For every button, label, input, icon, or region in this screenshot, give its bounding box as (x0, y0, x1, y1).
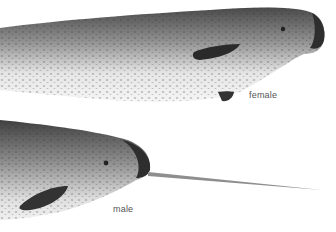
male-tusk (148, 172, 322, 190)
male-narwhal (0, 120, 322, 220)
narwhal-illustration (0, 0, 336, 232)
female-label: female (249, 90, 277, 100)
female-narwhal (0, 8, 325, 102)
male-label: male (113, 204, 133, 214)
male-eye (104, 161, 109, 166)
female-eye (281, 27, 285, 31)
